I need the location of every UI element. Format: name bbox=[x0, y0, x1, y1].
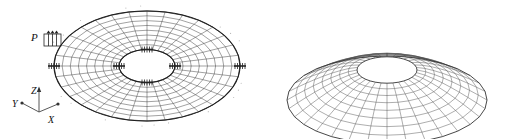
support-outer-left bbox=[48, 63, 60, 69]
axis-z-label: Z bbox=[31, 86, 37, 96]
panel-undeformed-mesh: P Z Y X bbox=[0, 0, 258, 139]
panel-deformed-mesh bbox=[257, 0, 515, 139]
mesh-lines bbox=[54, 11, 240, 121]
pressure-load-label: P bbox=[31, 32, 38, 43]
support-outer-right bbox=[234, 63, 246, 69]
support-inner-right bbox=[169, 63, 181, 69]
axis-y-label: Y bbox=[12, 99, 18, 109]
support-inner-bottom bbox=[141, 80, 153, 86]
figure-annular-plate: P Z Y X bbox=[0, 0, 515, 139]
undeformed-mesh-drawing bbox=[0, 0, 258, 139]
deformed-mesh-drawing bbox=[257, 0, 515, 139]
support-inner-left bbox=[113, 63, 125, 69]
axis-x-label: X bbox=[48, 115, 54, 125]
mesh-lines-deformed bbox=[287, 53, 487, 139]
pressure-load-arrows bbox=[44, 31, 61, 47]
support-inner-top bbox=[141, 47, 153, 53]
coordinate-axes bbox=[20, 87, 59, 113]
